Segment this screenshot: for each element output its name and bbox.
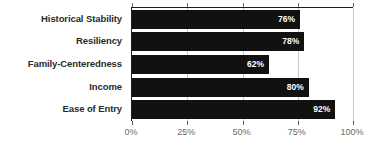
bar-row: 76%	[132, 10, 353, 29]
bar	[132, 32, 304, 51]
x-axis-tick-mark	[298, 121, 299, 125]
x-axis-tick-mark-top	[298, 3, 299, 7]
x-axis-tick-mark	[187, 121, 188, 125]
bar-value-label: 92%	[313, 100, 330, 119]
x-axis-tick-mark	[243, 121, 244, 125]
category-axis-labels: Historical StabilityResiliencyFamily-Cen…	[0, 7, 126, 120]
x-axis-tick-mark	[132, 121, 133, 125]
x-axis-tick-label: 75%	[288, 126, 306, 138]
bar-row: 78%	[132, 32, 353, 51]
category-label: Family-Centeredness	[28, 54, 122, 73]
x-axis-tick-mark-top	[243, 3, 244, 7]
bar-value-label: 76%	[278, 10, 295, 29]
category-label: Income	[89, 77, 122, 96]
x-axis-tick-label: 100%	[340, 126, 363, 138]
bar-row: 80%	[132, 78, 353, 97]
category-label: Ease of Entry	[63, 99, 122, 118]
x-axis-tick-mark	[353, 121, 354, 125]
x-axis-tick-label: 0%	[124, 126, 137, 138]
bar-row: 92%	[132, 100, 353, 119]
bar	[132, 10, 300, 29]
x-axis-tick-label: 25%	[177, 126, 195, 138]
gridline	[353, 8, 354, 121]
bar	[132, 78, 309, 97]
x-axis-tick-labels: 0%25%50%75%100%	[131, 126, 352, 140]
category-label: Historical Stability	[41, 9, 122, 28]
bar-value-label: 62%	[247, 55, 264, 74]
x-axis-tick-mark-top	[353, 3, 354, 7]
bar	[132, 100, 335, 119]
x-axis-tick-mark-top	[187, 3, 188, 7]
bar-chart: Historical StabilityResiliencyFamily-Cen…	[0, 0, 383, 146]
x-axis-tick-label: 50%	[232, 126, 250, 138]
bar-value-label: 80%	[287, 78, 304, 97]
bar-value-label: 78%	[282, 32, 299, 51]
plot-area: 76%78%62%80%92%	[131, 7, 353, 121]
x-axis-tick-mark-top	[132, 3, 133, 7]
category-label: Resiliency	[76, 31, 122, 50]
bar-row: 62%	[132, 55, 353, 74]
